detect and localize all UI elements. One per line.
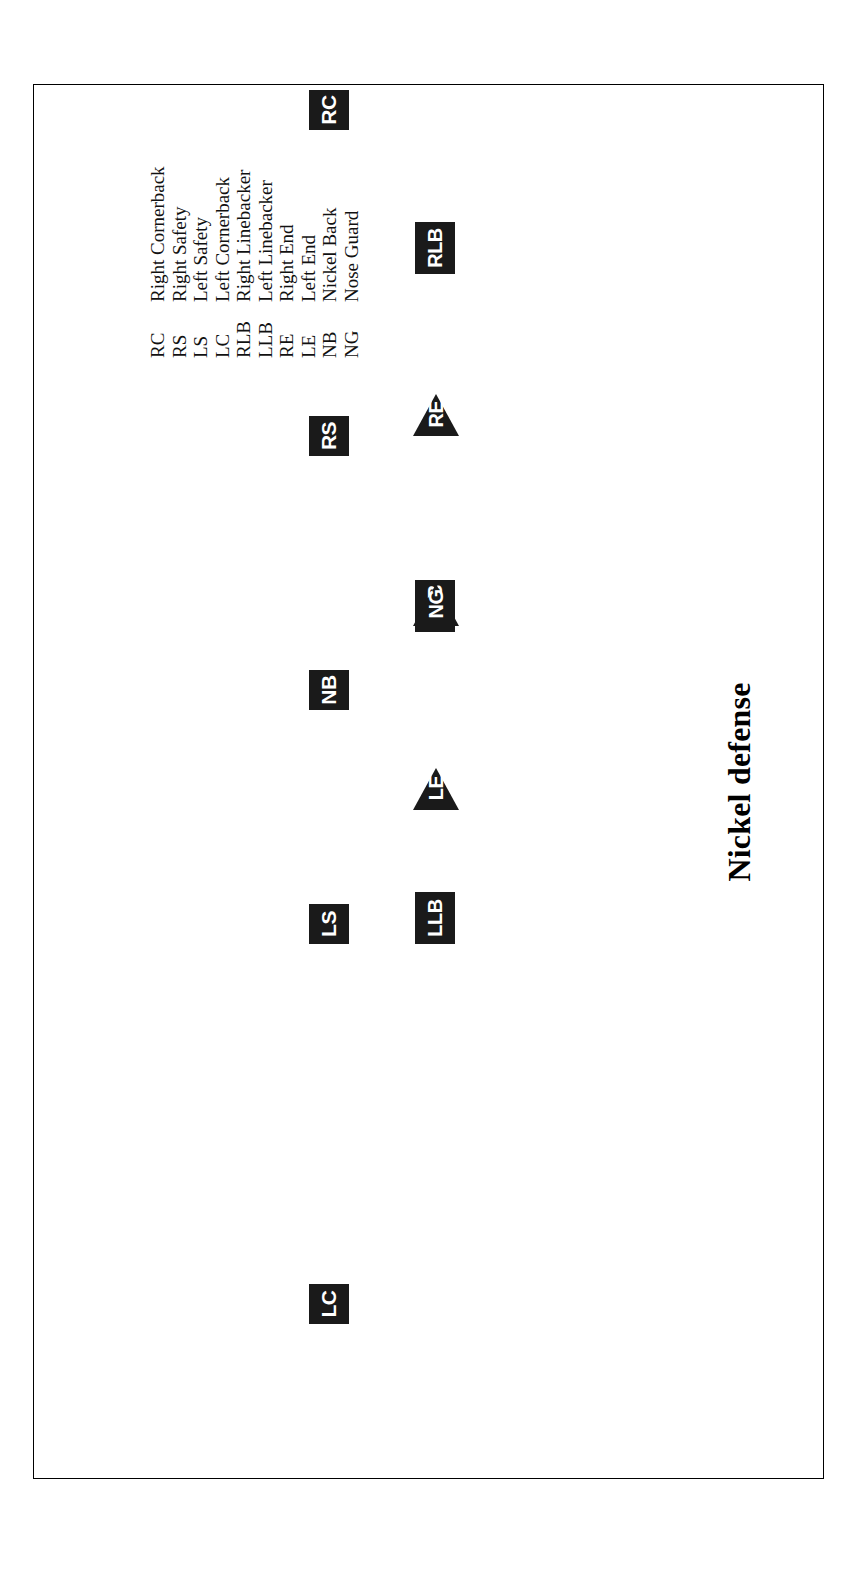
legend-row: LSLeft Safety: [190, 166, 212, 358]
player-marker-llb: LLB: [415, 892, 455, 944]
legend-description: Right Cornerback: [147, 166, 169, 302]
legend-row: NBNickel Back: [319, 166, 341, 358]
player-label: LLB: [424, 899, 446, 936]
player-label: LE: [424, 768, 448, 808]
legend-description: Right Linebacker: [233, 169, 255, 301]
player-label: RC: [317, 95, 340, 124]
figure-title: Nickel defense: [721, 86, 758, 1478]
player-marker-re: RE: [413, 394, 459, 436]
legend-row: LCLeft Cornerback: [211, 166, 233, 358]
player-marker-le: LE: [413, 768, 459, 810]
player-label: RE: [424, 394, 448, 434]
legend-description: Nose Guard: [340, 210, 362, 301]
legend-description: Right End: [276, 224, 298, 302]
legend-abbreviation: RE: [276, 302, 298, 358]
player-label: LS: [317, 911, 340, 937]
player-marker-nb: NB: [309, 670, 349, 710]
player-label: RLB: [424, 228, 446, 268]
player-label: RS: [317, 421, 340, 449]
legend-abbreviation: LS: [190, 302, 212, 358]
legend-description: Left Cornerback: [211, 176, 233, 301]
diagram-frame: LCLSLLBLENBMLBNGRSRERLBRC RCRight Corner…: [33, 84, 824, 1479]
player-marker-ng: NG: [413, 584, 459, 626]
legend-description: Right Safety: [168, 206, 190, 302]
legend: RCRight CornerbackRSRight SafetyLSLeft S…: [147, 166, 362, 358]
player-label: NG: [424, 584, 448, 624]
player-label: LC: [317, 1290, 340, 1317]
player-marker-ls: LS: [309, 904, 349, 944]
legend-row: RERight End: [276, 166, 298, 358]
legend-description: Left End: [297, 234, 319, 301]
legend-row: NGNose Guard: [340, 166, 362, 358]
legend-description: Left Safety: [190, 217, 212, 302]
rotated-diagram-stage: LCLSLLBLENBMLBNGRSRERLBRC RCRight Corner…: [35, 86, 823, 1478]
legend-abbreviation: LLB: [254, 302, 276, 358]
legend-abbreviation: RC: [147, 302, 169, 358]
legend-abbreviation: RS: [168, 302, 190, 358]
legend-row: RCRight Cornerback: [147, 166, 169, 358]
legend-description: Left Linebacker: [254, 180, 276, 302]
player-marker-rc: RC: [309, 90, 349, 130]
legend-abbreviation: NG: [340, 302, 362, 358]
player-marker-lc: LC: [309, 1284, 349, 1324]
legend-abbreviation: LE: [297, 302, 319, 358]
player-label: NB: [317, 675, 340, 704]
legend-row: RSRight Safety: [168, 166, 190, 358]
player-marker-rlb: RLB: [415, 222, 455, 274]
legend-abbreviation: RLB: [233, 302, 255, 358]
legend-abbreviation: NB: [319, 302, 341, 358]
legend-row: LLBLeft Linebacker: [254, 166, 276, 358]
legend-row: RLBRight Linebacker: [233, 166, 255, 358]
legend-description: Nickel Back: [319, 207, 341, 301]
legend-abbreviation: LC: [211, 302, 233, 358]
player-marker-rs: RS: [309, 416, 349, 456]
legend-row: LELeft End: [297, 166, 319, 358]
